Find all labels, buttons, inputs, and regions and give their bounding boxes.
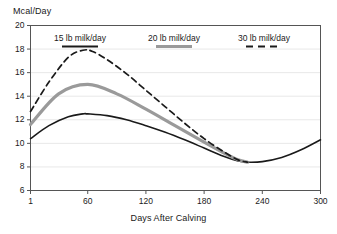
y-tick-label: 18 bbox=[7, 44, 25, 54]
y-tick-label: 16 bbox=[7, 67, 25, 77]
axis-ticks bbox=[27, 26, 321, 195]
x-tick-label: 60 bbox=[73, 196, 103, 206]
series-line-1 bbox=[31, 114, 321, 163]
grid-lines bbox=[31, 49, 321, 167]
y-tick-label: 6 bbox=[7, 185, 25, 195]
legend-label: 15 lb milk/day bbox=[35, 33, 125, 43]
x-tick-label: 1 bbox=[16, 196, 46, 206]
x-tick-label: 120 bbox=[131, 196, 161, 206]
plot-frame bbox=[31, 26, 321, 191]
x-tick-label: 180 bbox=[189, 196, 219, 206]
y-tick-label: 12 bbox=[7, 114, 25, 124]
data-series-lines bbox=[31, 50, 321, 163]
y-tick-label: 10 bbox=[7, 138, 25, 148]
x-tick-label: 240 bbox=[247, 196, 277, 206]
legend-label: 20 lb milk/day bbox=[129, 33, 219, 43]
y-axis-title: Mcal/Day bbox=[13, 6, 51, 16]
x-axis-title: Days After Calving bbox=[0, 213, 337, 223]
plot-border bbox=[31, 26, 321, 191]
y-tick-label: 20 bbox=[7, 20, 25, 30]
y-tick-label: 14 bbox=[7, 91, 25, 101]
legend-label: 30 lb milk/day bbox=[219, 33, 309, 43]
x-tick-label: 300 bbox=[306, 196, 336, 206]
y-tick-label: 8 bbox=[7, 161, 25, 171]
chart-figure: Mcal/Day Days After Calving 681012141618… bbox=[0, 0, 337, 234]
